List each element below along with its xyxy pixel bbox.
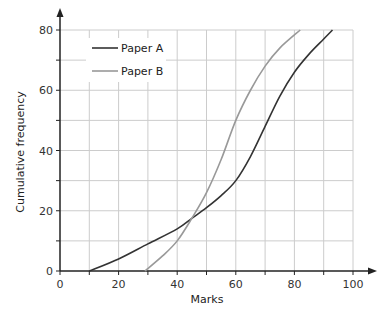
legend-label: Paper A [121,42,164,55]
cumulative-frequency-chart: 020406080100020406080 Paper APaper B Mar… [0,0,387,313]
x-axis-title: Marks [191,293,224,306]
legend-label: Paper B [121,65,163,78]
y-axis-title: Cumulative frequency [14,91,27,213]
y-tick-label: 40 [39,145,53,158]
x-axis-arrow-icon [368,268,377,275]
y-tick-label: 60 [39,84,53,97]
x-tick-label: 40 [170,278,184,291]
legend: Paper APaper B [86,38,166,82]
y-tick-label: 20 [39,205,53,218]
y-axis-arrow-icon [57,8,64,17]
x-tick-label: 60 [229,278,243,291]
x-tick-label: 100 [343,278,364,291]
x-tick-label: 20 [112,278,126,291]
y-tick-label: 80 [39,24,53,37]
x-tick-label: 0 [57,278,64,291]
x-tick-label: 80 [287,278,301,291]
y-tick-label: 0 [46,265,53,278]
